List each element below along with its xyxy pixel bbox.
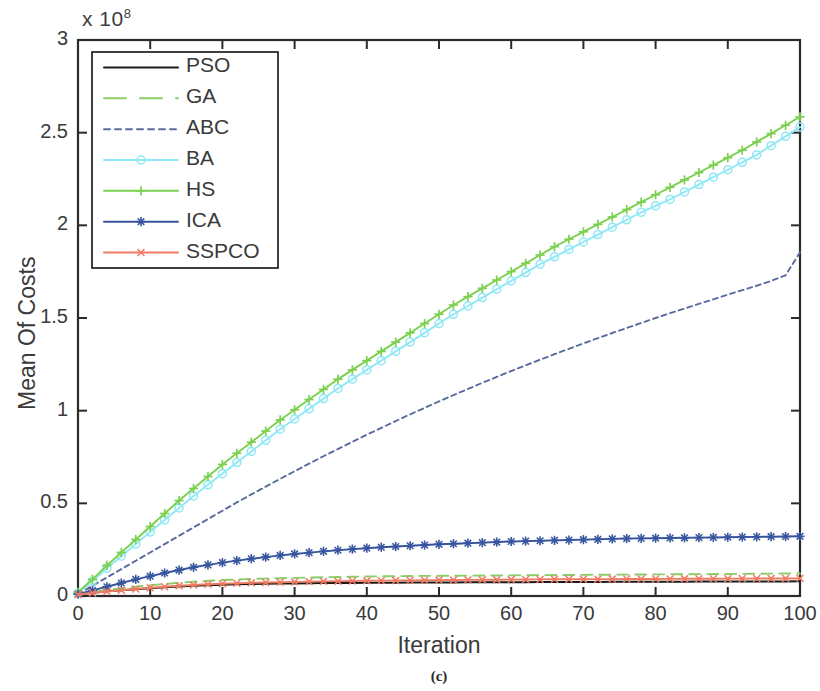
- exponent-base: x 10: [82, 7, 124, 30]
- x-tick-label: 80: [626, 602, 686, 625]
- x-tick-label: 70: [553, 602, 613, 625]
- x-tick-label: 0: [48, 602, 108, 625]
- x-tick-label: 20: [192, 602, 252, 625]
- x-axis-title: Iteration: [319, 632, 559, 659]
- x-tick-label: 90: [698, 602, 758, 625]
- y-tick-label: 3: [16, 27, 68, 50]
- chart-canvas: [0, 0, 820, 691]
- y-tick-label: 2: [16, 212, 68, 235]
- x-tick-label: 10: [120, 602, 180, 625]
- y-axis-title: Mean Of Costs: [14, 257, 41, 410]
- legend-label-pso[interactable]: PSO: [186, 53, 230, 77]
- exponent-power: 8: [124, 6, 132, 21]
- legend-label-ica[interactable]: ICA: [186, 208, 221, 232]
- figure-caption: (c): [379, 668, 499, 685]
- legend-label-hs[interactable]: HS: [186, 177, 215, 201]
- legend-label-abc[interactable]: ABC: [186, 115, 229, 139]
- x-tick-label: 30: [265, 602, 325, 625]
- x-tick-label: 50: [409, 602, 469, 625]
- x-tick-label: 60: [481, 602, 541, 625]
- legend-label-ba[interactable]: BA: [186, 146, 214, 170]
- x-tick-label: 100: [770, 602, 820, 625]
- figure-panel: x 108 Mean Of Costs Iteration (c) 00.511…: [0, 0, 820, 691]
- y-tick-label: 1.5: [16, 305, 68, 328]
- x-tick-label: 40: [337, 602, 397, 625]
- y-tick-label: 2.5: [16, 120, 68, 143]
- y-tick-label: 1: [16, 398, 68, 421]
- y-tick-label: 0.5: [16, 490, 68, 513]
- legend-label-ga[interactable]: GA: [186, 84, 216, 108]
- legend: [92, 52, 278, 268]
- y-axis-exponent-label: x 108: [82, 6, 131, 31]
- legend-label-sspco[interactable]: SSPCO: [186, 239, 260, 263]
